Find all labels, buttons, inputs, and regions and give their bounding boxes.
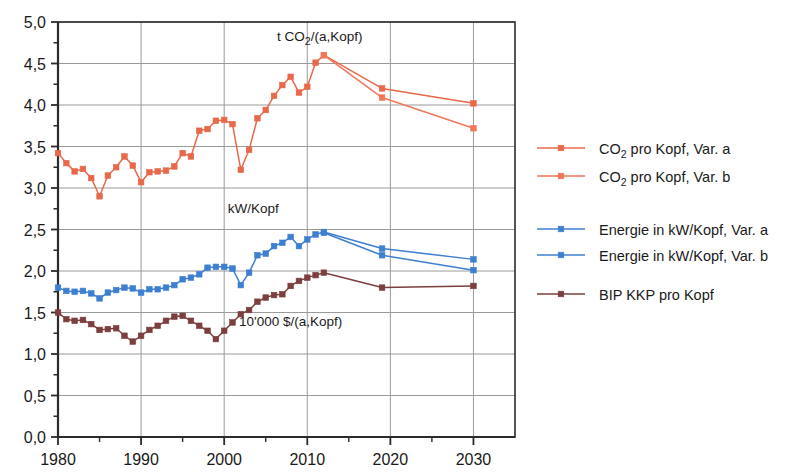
series-marker [288,234,294,240]
series-marker [88,321,94,327]
series-marker [205,265,211,271]
x-tick-label: 2020 [373,451,409,468]
legend-marker [558,291,564,297]
series-line [58,232,473,298]
series-marker [263,295,269,301]
series-marker [379,86,385,92]
x-tick-label: 2030 [456,451,492,468]
legend-marker [558,226,564,232]
y-tick-label: 1,0 [24,346,46,363]
series-marker [313,60,319,66]
series-marker [138,290,144,296]
series-marker [313,232,319,238]
series-marker [313,272,319,278]
data-series [55,229,476,301]
series-marker [147,169,153,175]
series-marker [130,286,136,292]
series-marker [246,307,252,313]
series-marker [55,285,61,291]
series-marker [213,118,219,124]
series-marker [471,125,477,131]
series-marker [321,52,327,58]
series-marker [88,175,94,181]
y-tick-label: 0,0 [24,429,46,446]
series-marker [122,154,128,160]
series-marker [221,328,227,334]
series-marker [188,318,194,324]
legend-entry[interactable]: Energie in kW/Kopf, Var. b [537,248,768,264]
series-marker [122,285,128,291]
series-marker [379,252,385,258]
legend-entry[interactable]: BIP KKP pro Kopf [537,287,715,303]
legend-entry[interactable]: Energie in kW/Kopf, Var. a [537,222,769,238]
series-marker [138,179,144,185]
series-marker [280,240,286,246]
legend-label: CO2 pro Kopf, Var. b [599,169,730,188]
series-marker [105,326,111,332]
series-marker [304,237,310,243]
series-line [58,55,473,196]
gridlines [58,22,515,437]
legend-entry[interactable]: CO2 pro Kopf, Var. b [537,169,730,188]
x-tick-label: 2010 [289,451,325,468]
series-line [58,273,473,342]
plot-annotation: 10'000 $/(a,Kopf) [239,314,342,329]
series-marker [196,128,202,134]
legend-label: Energie in kW/Kopf, Var. a [599,222,769,238]
series-marker [64,288,70,294]
series-marker [55,150,61,156]
series-marker [113,325,119,331]
series-marker [296,278,302,284]
series-marker [263,107,269,113]
series-marker [271,243,277,249]
series-marker [130,163,136,169]
series-marker [205,328,211,334]
series-marker [113,164,119,170]
series-marker [255,252,261,258]
series-marker [196,272,202,278]
plot-annotation: t CO2/(a,Kopf) [277,29,362,47]
series-marker [64,316,70,322]
y-tick-label: 1,5 [24,305,46,322]
series-marker [471,283,477,289]
series-marker [172,164,178,170]
y-tick-label: 5,0 [24,14,46,31]
legend-marker [558,145,564,151]
series-marker [471,257,477,263]
series-marker [471,101,477,107]
series-marker [97,296,103,302]
series-marker [255,115,261,121]
series-marker [196,323,202,329]
data-series-layer [55,52,476,344]
legend-marker [558,173,564,179]
series-marker [180,313,186,319]
chart-figure: 0,00,51,01,52,02,53,03,54,04,55,0 198019… [0,0,795,474]
y-tick-label: 2,0 [24,263,46,280]
series-marker [221,117,227,123]
series-marker [97,327,103,333]
series-marker [304,275,310,281]
legend-entry[interactable]: CO2 pro Kopf, Var. a [537,141,731,160]
x-tick-label: 1990 [123,451,159,468]
legend-label: BIP KKP pro Kopf [599,287,715,303]
legend-label: CO2 pro Kopf, Var. a [599,141,731,160]
series-marker [147,327,153,333]
series-marker [55,310,61,316]
x-tick-label: 1980 [40,451,76,468]
series-marker [72,169,78,175]
y-tick-label: 3,0 [24,180,46,197]
series-marker [97,194,103,200]
series-marker [72,289,78,295]
series-marker [172,314,178,320]
series-marker [72,318,78,324]
series-marker [271,292,277,298]
series-marker [105,173,111,179]
series-marker [304,84,310,90]
series-marker [238,282,244,288]
y-tick-label: 2,5 [24,222,46,239]
series-marker [246,270,252,276]
series-marker [88,291,94,297]
data-series [55,52,476,199]
series-marker [296,90,302,96]
data-series [55,270,476,344]
